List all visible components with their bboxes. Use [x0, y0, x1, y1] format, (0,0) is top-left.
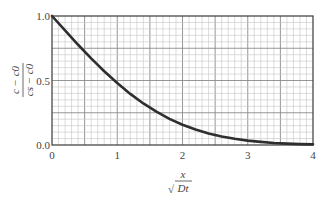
x-label-denominator: Dt	[177, 182, 190, 194]
y-label-numerator: c − c0	[9, 65, 21, 94]
y-label-denominator: cs − c0	[23, 63, 35, 96]
x-tick-label: 2	[180, 149, 186, 161]
y-axis-ticks: 0.00.51.0	[36, 10, 50, 151]
x-axis-ticks: 01234	[49, 149, 316, 161]
y-tick-label: 1.0	[36, 10, 50, 22]
y-tick-label: 0.0	[36, 139, 50, 151]
x-label-radical: √	[168, 183, 175, 195]
x-tick-label: 1	[115, 149, 121, 161]
x-tick-label: 4	[310, 149, 316, 161]
x-tick-label: 0	[49, 149, 55, 161]
chart: 01234 0.00.51.0 c − c0 cs − c0 x √ Dt	[0, 0, 325, 203]
x-axis-label: x √ Dt	[168, 168, 192, 195]
x-tick-label: 3	[245, 149, 251, 161]
y-axis-label: c − c0 cs − c0	[9, 63, 35, 97]
y-tick-label: 0.5	[36, 75, 50, 87]
x-label-numerator: x	[180, 168, 186, 180]
